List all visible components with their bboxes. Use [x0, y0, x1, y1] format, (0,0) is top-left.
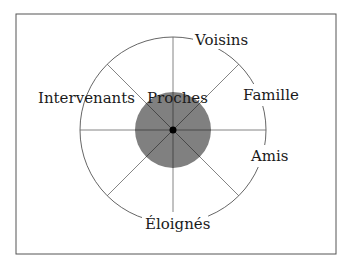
center-dot	[170, 127, 177, 134]
label-eloignes: Éloignés	[145, 215, 210, 233]
label-proches: Proches	[147, 89, 208, 107]
label-voisins: Voisins	[194, 31, 248, 49]
label-famille: Famille	[243, 86, 299, 104]
social-network-diagram: Voisins Famille Amis Éloignés Intervenan…	[0, 0, 356, 267]
label-intervenants: Intervenants	[38, 89, 135, 107]
label-amis: Amis	[250, 147, 289, 165]
